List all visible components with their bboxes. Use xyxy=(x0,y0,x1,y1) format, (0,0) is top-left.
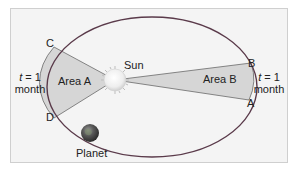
left-time-unit: month xyxy=(13,83,47,95)
left-time-value: = 1 xyxy=(22,71,41,83)
left-time-label: t = 1 month xyxy=(13,71,47,95)
right-time-unit: month xyxy=(251,83,287,95)
point-d-label: D xyxy=(46,111,54,123)
point-b-label: B xyxy=(248,57,255,69)
right-time-label: t = 1 month xyxy=(251,71,287,95)
area-b-label: Area B xyxy=(203,73,237,85)
area-a-label: Area A xyxy=(58,75,91,87)
sun-label: Sun xyxy=(124,59,144,71)
right-time-value: = 1 xyxy=(261,71,280,83)
planet-icon xyxy=(81,124,99,142)
kepler-diagram: C D B A Sun Area A Area B Planet t = 1 m… xyxy=(0,0,299,178)
point-a-label: A xyxy=(247,97,254,109)
point-c-label: C xyxy=(46,37,54,49)
planet-label: Planet xyxy=(76,147,107,159)
